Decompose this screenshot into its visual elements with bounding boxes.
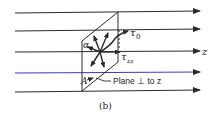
tau0-subscript: 0 (136, 33, 140, 41)
flow-line-1 (15, 11, 200, 13)
point-a-arrow (87, 78, 93, 80)
point-a-label: A (80, 76, 88, 86)
figure-caption: (b) (99, 101, 112, 111)
plane-label: Plane ⊥ to z (113, 76, 161, 86)
tauzz-subscript: zz (126, 57, 134, 64)
arrow-down-left (91, 52, 100, 66)
stress-diagram: α τ 0 τ zz z A Plane ⊥ to z (b) (0, 0, 216, 116)
flow-line-4 (15, 72, 200, 73)
plane-leader-line (96, 78, 111, 81)
alpha-label: α (83, 40, 89, 50)
flow-line-2 (15, 29, 200, 31)
z-axis-label: z (201, 46, 208, 57)
flow-line-5 (15, 90, 200, 92)
arrow-down-right (100, 52, 104, 67)
